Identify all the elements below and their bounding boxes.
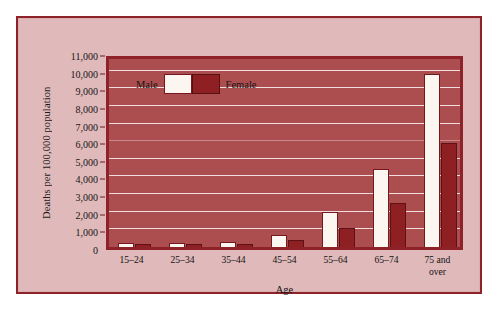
x-axis-ticks: 15–2425–3435–4445–5455–6465–7475 and ove…	[106, 254, 463, 288]
chart-figure: Deaths per 100,000 population 01,0002,00…	[0, 0, 498, 310]
y-tickmark-11000	[100, 56, 105, 57]
chart-legend: Male Female	[130, 73, 262, 95]
y-tickmark-5000	[100, 161, 105, 162]
y-tick-label-3000: 3,000	[76, 192, 99, 203]
bar-male	[271, 235, 287, 247]
y-tick-label-10000: 10,000	[71, 68, 99, 79]
bar-group	[424, 59, 457, 247]
bar-group	[373, 59, 406, 247]
y-tickmark-7000	[100, 126, 105, 127]
bar-male	[322, 212, 338, 247]
y-tickmark-6000	[100, 144, 105, 145]
y-tick-label-8000: 8,000	[76, 103, 99, 114]
y-tick-label-7000: 7,000	[76, 121, 99, 132]
y-tick-label-9000: 9,000	[76, 86, 99, 97]
y-tick-label-11000: 11,000	[71, 51, 98, 62]
x-tick-label: 45–54	[259, 254, 310, 266]
bar-male	[373, 169, 389, 247]
y-tick-label-2000: 2,000	[76, 209, 99, 220]
legend-label-male: Male	[130, 79, 164, 90]
bar-female	[441, 143, 457, 247]
x-tick-label: 65–74	[361, 254, 412, 266]
bar-female	[390, 203, 406, 247]
y-axis-ticks: 01,0002,0003,0004,0005,0006,0007,0008,00…	[56, 56, 102, 250]
y-tickmark-2000	[100, 214, 105, 215]
legend-label-female: Female	[220, 79, 263, 90]
x-axis-title: Age	[106, 284, 463, 295]
y-tick-label-0: 0	[93, 245, 98, 256]
bar-group	[271, 59, 304, 247]
x-tick-label: 75 and over	[412, 254, 463, 278]
y-axis-title: Deaths per 100,000 population	[38, 56, 54, 250]
y-tickmark-4000	[100, 179, 105, 180]
x-tick-label: 55–64	[310, 254, 361, 266]
bar-female	[288, 240, 304, 247]
y-tick-label-1000: 1,000	[76, 227, 99, 238]
bar-male	[118, 243, 134, 247]
figure-frame: Deaths per 100,000 population 01,0002,00…	[16, 16, 482, 294]
bar-female	[339, 228, 355, 247]
legend-swatch-female	[192, 74, 220, 94]
bar-female	[135, 244, 151, 247]
y-tickmark-3000	[100, 197, 105, 198]
y-tickmark-10000	[100, 73, 105, 74]
bar-male	[169, 243, 185, 247]
bar-male	[220, 242, 236, 247]
x-tick-label: 35–44	[208, 254, 259, 266]
x-tick-label: 25–34	[157, 254, 208, 266]
bar-female	[186, 244, 202, 247]
bar-female	[237, 244, 253, 247]
y-tick-label-4000: 4,000	[76, 174, 99, 185]
x-tick-label: 15–24	[106, 254, 157, 266]
y-tickmark-9000	[100, 91, 105, 92]
y-tick-label-5000: 5,000	[76, 156, 99, 167]
y-tickmark-8000	[100, 108, 105, 109]
y-tickmark-1000	[100, 232, 105, 233]
legend-swatch-male	[164, 74, 192, 94]
y-tick-label-6000: 6,000	[76, 139, 99, 150]
bar-male	[424, 74, 440, 247]
bar-group	[322, 59, 355, 247]
